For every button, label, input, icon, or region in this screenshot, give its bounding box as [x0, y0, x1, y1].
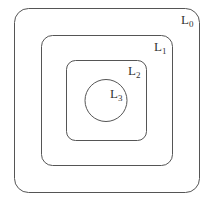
- region-l1-boundary: [42, 36, 173, 166]
- label-l2: L2: [128, 63, 140, 80]
- nested-regions-diagram: L0 L1 L2 L3: [0, 0, 208, 204]
- diagram-canvas: L0 L1 L2 L3: [0, 0, 208, 204]
- label-l3: L3: [110, 86, 123, 103]
- label-l1: L1: [154, 39, 166, 56]
- region-l0-boundary: [15, 9, 200, 193]
- label-l0: L0: [181, 12, 194, 29]
